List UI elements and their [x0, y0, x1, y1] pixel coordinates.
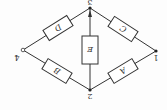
component-B: B — [42, 59, 72, 84]
node-1 — [154, 49, 157, 52]
component-E: E — [82, 36, 98, 64]
node-label-3: 3 — [87, 0, 92, 7]
component-D: D — [43, 15, 73, 40]
node-label-1: 1 — [153, 53, 158, 62]
node-4 — [21, 48, 25, 52]
node-label-4: 4 — [14, 53, 19, 62]
component-C: C — [108, 16, 138, 41]
circuit-svg: D C B A E 3 2 1 4 — [0, 0, 167, 110]
node-2 — [88, 88, 91, 91]
component-label: E — [87, 45, 94, 54]
component-A: A — [108, 59, 138, 84]
node-label-2: 2 — [87, 92, 92, 101]
bridge-circuit-diagram: D C B A E 3 2 1 4 — [0, 0, 167, 110]
arrow-icon — [88, 10, 92, 17]
